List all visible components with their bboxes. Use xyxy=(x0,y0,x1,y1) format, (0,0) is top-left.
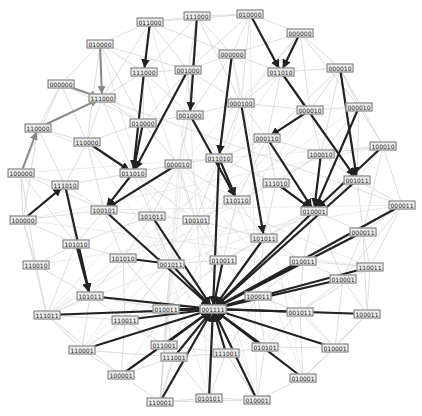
node-label[interactable]: 110011 xyxy=(112,316,139,325)
node-label[interactable]: 011001 xyxy=(151,341,178,350)
node-label[interactable]: 100011 xyxy=(245,292,272,301)
node-label[interactable]: 111011 xyxy=(34,311,61,320)
node-label[interactable]: 000010 xyxy=(165,160,192,169)
node-label[interactable]: 100010 xyxy=(370,142,397,151)
node-label[interactable]: 001000 xyxy=(177,111,204,120)
node-label[interactable]: 011000 xyxy=(137,18,164,27)
edge xyxy=(90,296,209,309)
node-label[interactable]: 011010 xyxy=(206,154,233,163)
node-label[interactable]: 100011 xyxy=(354,310,381,319)
edge xyxy=(250,14,279,68)
node-label[interactable]: 010011 xyxy=(210,256,237,265)
node-label[interactable]: 010001 xyxy=(301,207,328,216)
edge xyxy=(76,244,89,292)
node-label[interactable]: 000011 xyxy=(350,228,377,237)
node-label[interactable]: 111001 xyxy=(213,349,240,358)
edge xyxy=(190,16,197,111)
node-label[interactable]: 101010 xyxy=(110,254,137,263)
node-label[interactable]: 000110 xyxy=(254,134,281,143)
node-label[interactable]: 111000 xyxy=(184,12,211,21)
node-label[interactable]: 110011 xyxy=(357,263,384,272)
node-label[interactable]: 011010 xyxy=(120,169,147,178)
node-label[interactable]: 010011 xyxy=(153,305,180,314)
node-label[interactable]: 000000 xyxy=(219,50,246,59)
node-label[interactable]: 010000 xyxy=(87,40,114,49)
node-label[interactable]: 110000 xyxy=(74,138,101,147)
network-graph: 0110001110000100000000000100000000001110… xyxy=(0,0,422,416)
node-label[interactable]: 101011 xyxy=(251,234,278,243)
node-label[interactable]: 110001 xyxy=(69,346,96,355)
node-label[interactable]: 100101 xyxy=(183,216,210,225)
edge xyxy=(100,44,102,94)
node-label[interactable]: 010000 xyxy=(130,119,157,128)
node-label[interactable]: 100101 xyxy=(91,206,118,215)
node-label[interactable]: 000010 xyxy=(346,103,373,112)
node-label[interactable]: 100000 xyxy=(8,169,35,178)
node-label[interactable]: 011010 xyxy=(268,68,295,77)
node-label[interactable]: 001000 xyxy=(175,66,202,75)
node-label[interactable]: 010011 xyxy=(290,257,317,266)
node-label[interactable]: 001111 xyxy=(200,305,227,314)
node-label[interactable]: 001011 xyxy=(344,176,371,185)
node-label[interactable]: 000000 xyxy=(287,29,314,38)
node-label[interactable]: 101010 xyxy=(63,240,90,249)
node-label[interactable]: 111000 xyxy=(131,68,158,77)
node-label[interactable]: 000100 xyxy=(228,99,255,108)
node-label[interactable]: 010001 xyxy=(244,396,271,405)
node-label[interactable]: 001011 xyxy=(158,260,185,269)
graph-edges-layer xyxy=(0,0,422,416)
node-label[interactable]: 010101 xyxy=(252,343,279,352)
node-label[interactable]: 111010 xyxy=(52,181,79,190)
node-label[interactable]: 100001 xyxy=(108,371,135,380)
node-label[interactable]: 101011 xyxy=(77,292,104,301)
node-label[interactable]: 100010 xyxy=(308,150,335,159)
node-label[interactable]: 110010 xyxy=(23,261,50,270)
node-label[interactable]: 111000 xyxy=(89,94,116,103)
node-label[interactable]: 010001 xyxy=(330,275,357,284)
node-label[interactable]: 110110 xyxy=(224,196,251,205)
node-label[interactable]: 111001 xyxy=(161,353,188,362)
node-label[interactable]: 000010 xyxy=(297,106,324,115)
node-label[interactable]: 010000 xyxy=(237,10,264,19)
node-label[interactable]: 111010 xyxy=(263,179,290,188)
node-label[interactable]: 110000 xyxy=(25,124,52,133)
node-label[interactable]: 001011 xyxy=(287,308,314,317)
node-label[interactable]: 000000 xyxy=(48,80,75,89)
node-label[interactable]: 100000 xyxy=(10,216,37,225)
node-label[interactable]: 110001 xyxy=(147,398,174,407)
node-label[interactable]: 000010 xyxy=(327,64,354,73)
node-label[interactable]: 000011 xyxy=(389,201,416,210)
node-label[interactable]: 010101 xyxy=(196,394,223,403)
node-label[interactable]: 010001 xyxy=(290,374,317,383)
node-label[interactable]: 010001 xyxy=(322,344,349,353)
node-label[interactable]: 101011 xyxy=(139,212,166,221)
